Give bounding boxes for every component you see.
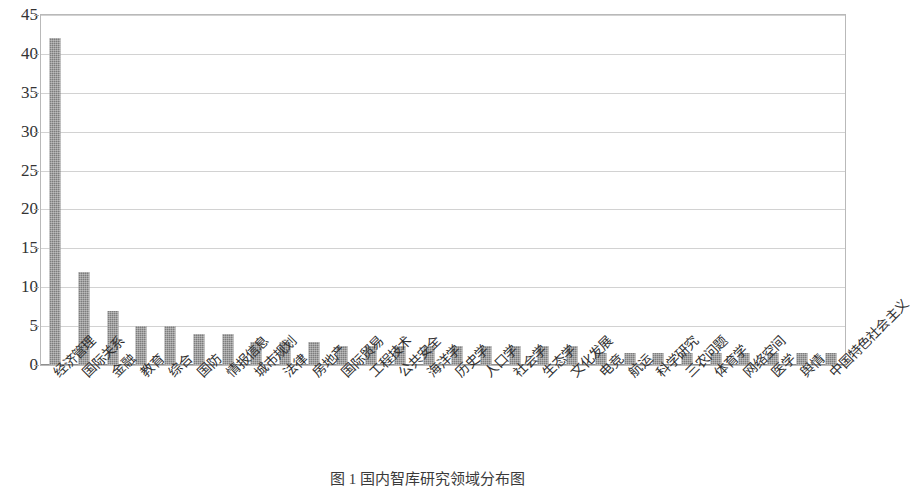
bar — [50, 38, 61, 365]
y-axis-tick-mark — [34, 326, 39, 327]
bar-item — [156, 15, 185, 365]
bar-item — [41, 15, 70, 365]
x-axis-labels: 经济管理国际关系金融教育综合国防情报信息城市规划法律房地产国际贸易工程技术公共安… — [41, 368, 845, 486]
bar-item — [242, 15, 271, 365]
y-axis-tick-mark — [34, 93, 39, 94]
y-axis-tick-label: 0 — [4, 356, 38, 373]
bar-item — [558, 15, 587, 365]
bar-item — [500, 15, 529, 365]
bar-item — [587, 15, 616, 365]
y-axis-tick-mark — [34, 171, 39, 172]
y-axis-tick-label: 35 — [4, 84, 38, 101]
bar-item — [185, 15, 214, 365]
y-axis-tick-mark — [34, 209, 39, 210]
bar-item — [701, 15, 730, 365]
bar-series — [41, 15, 845, 365]
y-axis-tick-mark — [34, 248, 39, 249]
y-axis-tick-label: 40 — [4, 45, 38, 62]
bar-item — [299, 15, 328, 365]
y-axis-tick-label: 25 — [4, 162, 38, 179]
y-axis-tick-mark — [34, 15, 39, 16]
bar-item — [443, 15, 472, 365]
bar-item — [472, 15, 501, 365]
bar-item — [615, 15, 644, 365]
bar-item — [529, 15, 558, 365]
y-axis-tick-label: 20 — [4, 200, 38, 217]
y-axis: 051015202530354045 — [0, 14, 38, 366]
y-axis-tick-label: 45 — [4, 6, 38, 23]
y-axis-tick-label: 30 — [4, 123, 38, 140]
y-axis-tick-mark — [34, 132, 39, 133]
bar-item — [816, 15, 845, 365]
y-axis-tick-mark — [34, 287, 39, 288]
bar-item — [328, 15, 357, 365]
bar-item — [271, 15, 300, 365]
bar-item — [386, 15, 415, 365]
y-axis-tick-label: 10 — [4, 278, 38, 295]
bar-item — [673, 15, 702, 365]
figure-caption: 图 1 国内智库研究领域分布图 — [0, 470, 855, 489]
bar-item — [730, 15, 759, 365]
bar-item — [759, 15, 788, 365]
y-axis-tick-label: 5 — [4, 317, 38, 334]
y-axis-tick-label: 15 — [4, 239, 38, 256]
bar-item — [70, 15, 99, 365]
bar-item — [213, 15, 242, 365]
bar-item — [788, 15, 817, 365]
bar — [136, 326, 147, 365]
bar-item — [644, 15, 673, 365]
bar-item — [127, 15, 156, 365]
bar-item — [414, 15, 443, 365]
bar-item — [98, 15, 127, 365]
y-axis-tick-mark — [34, 54, 39, 55]
y-axis-tick-mark — [34, 365, 39, 366]
bar-item — [357, 15, 386, 365]
